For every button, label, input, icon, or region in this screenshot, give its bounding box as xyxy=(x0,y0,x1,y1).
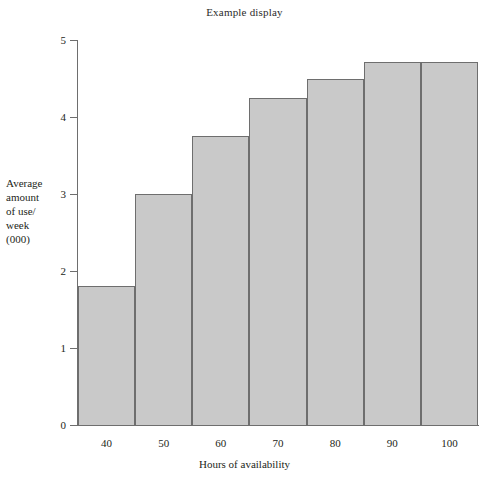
y-tick-2 xyxy=(70,271,78,272)
y-tick-4 xyxy=(70,117,78,118)
x-tick-label-70: 70 xyxy=(258,438,298,449)
y-axis-label-line-5: (000) xyxy=(6,232,66,246)
chart-title: Example display xyxy=(0,6,489,18)
y-tick-label-4: 4 xyxy=(38,109,66,125)
bar-80 xyxy=(307,79,364,426)
bar-100 xyxy=(421,62,478,425)
x-tick-label-50: 50 xyxy=(144,438,184,449)
x-axis-label: Hours of availability xyxy=(0,458,489,470)
chart-figure: Example display Average amount of use/ w… xyxy=(0,0,489,482)
y-tick-label-1: 1 xyxy=(38,340,66,356)
x-tick-label-100: 100 xyxy=(429,438,469,449)
y-tick-label-2: 2 xyxy=(38,263,66,279)
plot-area xyxy=(78,40,478,425)
y-tick-label-3: 3 xyxy=(38,186,66,202)
bar-40 xyxy=(78,286,135,425)
y-tick-3 xyxy=(70,194,78,195)
y-tick-0 xyxy=(70,425,78,426)
bar-70 xyxy=(249,98,306,425)
x-tick-label-40: 40 xyxy=(87,438,127,449)
y-tick-label-0: 0 xyxy=(38,417,66,433)
x-tick-label-60: 60 xyxy=(201,438,241,449)
y-tick-1 xyxy=(70,348,78,349)
bar-90 xyxy=(364,62,421,425)
bar-50 xyxy=(135,194,192,425)
x-axis-line xyxy=(77,425,479,426)
bar-60 xyxy=(192,136,249,425)
y-tick-5 xyxy=(70,40,78,41)
x-tick-label-90: 90 xyxy=(372,438,412,449)
x-tick-label-80: 80 xyxy=(315,438,355,449)
y-axis-label-line-3: of use/ xyxy=(6,204,66,218)
y-tick-label-5: 5 xyxy=(38,32,66,48)
y-axis-label-line-4: week xyxy=(6,218,66,232)
